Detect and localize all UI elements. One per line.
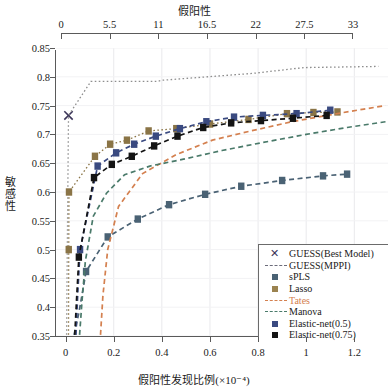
y-tick-label-8: 0.75 bbox=[32, 100, 50, 111]
dashed-line-icon bbox=[265, 265, 287, 266]
x-tick-label-0: 0 bbox=[63, 347, 68, 358]
data-point-marker bbox=[200, 124, 206, 131]
legend-label: sPLS bbox=[289, 271, 310, 282]
y-tick-label-5: 0.6 bbox=[37, 187, 50, 198]
data-point-marker bbox=[166, 201, 172, 208]
top-tick-label-4: 22 bbox=[250, 19, 261, 30]
top-tick-mark-3 bbox=[207, 34, 208, 39]
y-tick-mark-4 bbox=[50, 221, 55, 222]
data-point-marker bbox=[107, 140, 113, 147]
dashed-line-icon bbox=[265, 300, 287, 301]
data-point-marker bbox=[153, 132, 159, 139]
data-point-marker bbox=[323, 112, 329, 119]
x-tick-mark-3 bbox=[210, 337, 211, 342]
top-tick-mark-4 bbox=[256, 34, 257, 39]
top-tick-label-2: 11 bbox=[153, 19, 163, 30]
legend-label: Elastic-net(0.75) bbox=[289, 329, 356, 340]
y-tick-mark-0 bbox=[50, 336, 55, 337]
y-tick-label-9: 0.8 bbox=[37, 71, 50, 82]
data-point-marker bbox=[66, 188, 72, 195]
x-tick-mark-6 bbox=[354, 337, 355, 342]
chart-root: 假阳性 敏感性 假阳性发现比例(×10⁻⁴) ✕GUESS(Best Model… bbox=[0, 0, 388, 388]
top-tick-label-5: 27.5 bbox=[295, 19, 313, 30]
top-axis-cap-right bbox=[352, 33, 353, 39]
y-tick-mark-1 bbox=[50, 307, 55, 308]
y-tick-label-0: 0.35 bbox=[32, 331, 50, 342]
x-marker-icon: ✕ bbox=[270, 248, 279, 259]
data-point-marker bbox=[145, 127, 151, 134]
square-icon bbox=[272, 332, 278, 338]
data-point-marker bbox=[151, 142, 157, 149]
legend-label: Manova bbox=[289, 306, 322, 317]
y-axis-title: 敏感性 bbox=[2, 176, 18, 212]
top-tick-label-3: 16.5 bbox=[198, 19, 216, 30]
legend-square-icon bbox=[263, 318, 289, 329]
legend-x-marker-icon: ✕ bbox=[263, 248, 289, 259]
data-point-marker bbox=[135, 215, 141, 222]
x-tick-label-3: 0.6 bbox=[203, 347, 216, 358]
top-tick-label-0: 0 bbox=[58, 19, 63, 30]
data-point-marker bbox=[174, 132, 180, 139]
y-tick-label-2: 0.45 bbox=[32, 273, 50, 284]
x-tick-mark-1 bbox=[114, 337, 115, 342]
data-point-marker bbox=[131, 140, 137, 147]
top-tick-label-1: 5.5 bbox=[103, 19, 116, 30]
legend-square-icon bbox=[263, 271, 289, 282]
square-icon bbox=[272, 274, 278, 280]
legend-item-elastic-net-0.5[interactable]: Elastic-net(0.5) bbox=[263, 318, 388, 330]
legend-square-icon bbox=[263, 283, 289, 294]
square-icon bbox=[272, 321, 278, 327]
legend-item-tates[interactable]: Tates bbox=[263, 294, 388, 306]
data-point-marker bbox=[202, 191, 208, 198]
legend-label: Elastic-net(0.5) bbox=[289, 318, 351, 329]
data-point-marker bbox=[129, 153, 135, 160]
legend-item-lasso[interactable]: Lasso bbox=[263, 283, 388, 295]
legend-label: Tates bbox=[289, 295, 310, 306]
legend-item-spls[interactable]: sPLS bbox=[263, 271, 388, 283]
y-tick-label-7: 0.7 bbox=[37, 129, 50, 140]
legend-item-guess-mppi[interactable]: GUESS(MPPI) bbox=[263, 260, 388, 272]
legend-label: GUESS(Best Model) bbox=[289, 248, 374, 259]
data-point-marker bbox=[228, 119, 234, 126]
y-tick-label-1: 0.4 bbox=[37, 302, 50, 313]
data-point-marker bbox=[334, 108, 340, 115]
dashed-line-icon bbox=[265, 311, 287, 312]
y-tick-mark-7 bbox=[50, 134, 55, 135]
legend-square-icon bbox=[263, 329, 289, 340]
legend-label: GUESS(MPPI) bbox=[289, 260, 351, 271]
y-tick-label-3: 0.5 bbox=[37, 244, 50, 255]
legend-dashed-line-icon bbox=[263, 295, 289, 306]
legend-item-guess-best-model[interactable]: ✕GUESS(Best Model) bbox=[263, 248, 388, 260]
x-tick-label-6: 1.2 bbox=[348, 347, 361, 358]
x-tick-label-4: 0.8 bbox=[252, 347, 265, 358]
data-point-marker bbox=[344, 170, 350, 177]
y-tick-mark-3 bbox=[50, 250, 55, 251]
legend-item-manova[interactable]: Manova bbox=[263, 306, 388, 318]
x-tick-mark-5 bbox=[306, 337, 307, 342]
data-point-marker bbox=[113, 149, 119, 156]
data-point-marker bbox=[124, 136, 130, 143]
x-tick-label-5: 1 bbox=[304, 347, 309, 358]
x-tick-label-1: 0.2 bbox=[107, 347, 120, 358]
x-tick-mark-4 bbox=[258, 337, 259, 342]
data-point-marker bbox=[177, 125, 183, 132]
data-point-marker bbox=[66, 246, 72, 253]
legend-item-elastic-net-0.75[interactable]: Elastic-net(0.75) bbox=[263, 329, 388, 341]
x-axis-title: 假阳性发现比例(×10⁻⁴) bbox=[0, 371, 388, 387]
y-tick-mark-8 bbox=[50, 106, 55, 107]
data-point-marker bbox=[92, 153, 98, 160]
legend-dashed-line-icon bbox=[263, 306, 289, 317]
legend-dashed-line-icon bbox=[263, 260, 289, 271]
top-tick-mark-2 bbox=[158, 34, 159, 39]
y-tick-mark-6 bbox=[50, 163, 55, 164]
data-point-marker bbox=[279, 177, 285, 184]
y-tick-label-10: 0.85 bbox=[32, 43, 50, 54]
y-tick-mark-2 bbox=[50, 278, 55, 279]
top-tick-label-6: 33 bbox=[348, 19, 359, 30]
y-tick-mark-5 bbox=[50, 192, 55, 193]
data-point-marker bbox=[320, 172, 326, 179]
top-tick-mark-1 bbox=[110, 34, 111, 39]
x-tick-mark-0 bbox=[66, 337, 67, 342]
legend[interactable]: ✕GUESS(Best Model)GUESS(MPPI)sPLSLassoTa… bbox=[258, 244, 388, 341]
y-tick-mark-10 bbox=[50, 48, 55, 49]
